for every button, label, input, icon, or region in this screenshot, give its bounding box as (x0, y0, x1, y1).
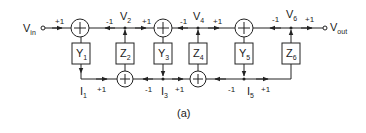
block-z2-label: Z2 (120, 47, 131, 61)
vin-label: Vin (23, 22, 36, 36)
input-terminal (41, 26, 45, 30)
block-y5-label: Y5 (239, 47, 250, 61)
i1-label: I1 (80, 85, 87, 99)
block-y1-label: Y1 (76, 47, 87, 61)
v2-label: V2 (120, 10, 131, 24)
gain-in: +1 (55, 17, 65, 26)
gain-v2-minus: -1 (106, 17, 114, 26)
gain-v6-minus: -1 (272, 15, 280, 24)
vout-label: Vout (330, 21, 347, 35)
gain-i3-minus: -1 (145, 85, 153, 94)
block-z6-label: Z6 (286, 47, 297, 61)
i3-label: I3 (161, 85, 168, 99)
block-z4-label: Z4 (193, 47, 204, 61)
v6-label: V6 (286, 8, 297, 22)
gain-v6-plus: +1 (305, 15, 315, 24)
gain-i5-minus: -1 (228, 85, 236, 94)
block-y3-label: Y3 (158, 47, 169, 61)
v4-label: V4 (193, 10, 204, 24)
gain-v2-plus: +1 (142, 17, 152, 26)
caption: (a) (177, 107, 190, 119)
gain-v4-plus: +1 (213, 17, 223, 26)
gain-i3-plus: +1 (175, 85, 185, 94)
gain-i5-plus: +1 (261, 85, 271, 94)
output-terminal (323, 26, 327, 30)
signal-flow-diagram: Vin Vout V2 V4 V6 I1 I3 I5 Y1 Z2 Y3 Z4 Y… (0, 0, 366, 133)
gain-v4-minus: -1 (180, 17, 188, 26)
i5-label: I5 (247, 85, 254, 99)
gain-i1-plus: +1 (97, 85, 107, 94)
